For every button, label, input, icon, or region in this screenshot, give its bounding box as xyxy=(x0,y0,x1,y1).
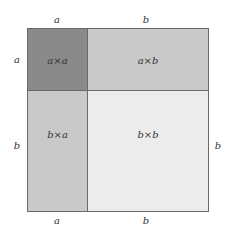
right-label-b: b xyxy=(215,140,221,151)
cell-label-bb: b×b xyxy=(137,129,158,140)
bottom-label-a: a xyxy=(54,215,60,226)
cell-a-times-a: a×a xyxy=(27,28,88,91)
cell-label-aa: a×a xyxy=(47,54,67,65)
bottom-label-b: b xyxy=(143,215,149,226)
cell-label-ab: a×b xyxy=(138,54,159,65)
top-label-b: b xyxy=(143,14,149,25)
left-label-b: b xyxy=(14,140,20,151)
cell-b-times-a: b×a xyxy=(27,90,88,212)
cell-b-times-b: b×b xyxy=(87,90,209,212)
left-label-a: a xyxy=(14,54,20,65)
cell-label-ba: b×a xyxy=(47,129,68,140)
top-label-a: a xyxy=(54,14,60,25)
cell-a-times-b: a×b xyxy=(87,28,209,91)
